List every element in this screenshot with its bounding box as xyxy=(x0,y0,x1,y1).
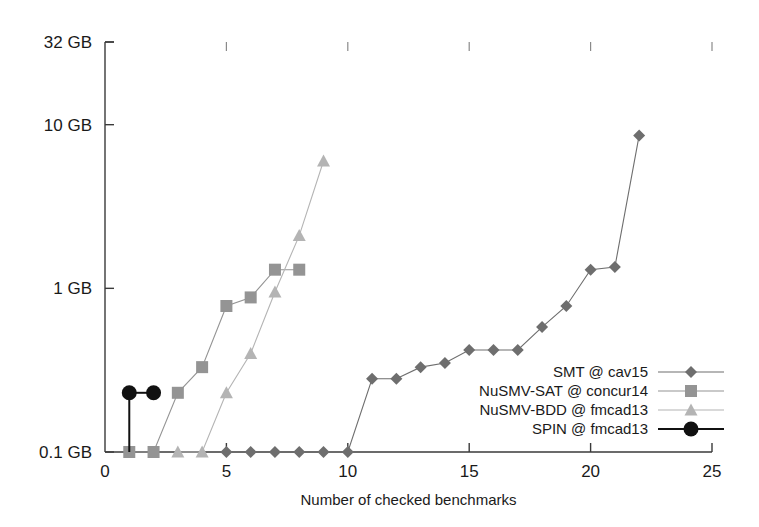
data-point xyxy=(245,446,257,458)
legend-entry: NuSMV-BDD @ fmcad13 xyxy=(479,401,724,418)
x-tick-label: 10 xyxy=(338,462,357,481)
series-line xyxy=(178,161,324,452)
y-tick-label: 10 GB xyxy=(44,116,92,135)
data-point xyxy=(342,446,354,458)
data-point xyxy=(196,361,208,373)
data-point xyxy=(245,291,257,303)
data-point xyxy=(122,385,137,400)
legend-marker xyxy=(685,385,697,397)
data-point xyxy=(609,261,621,273)
data-point xyxy=(172,387,184,399)
data-point xyxy=(390,373,402,385)
data-point xyxy=(293,446,305,458)
legend-entry: SPIN @ fmcad13 xyxy=(532,420,724,437)
data-point xyxy=(293,264,305,276)
series-spin-fmcad13 xyxy=(122,385,161,452)
legend-marker xyxy=(685,366,697,378)
data-point xyxy=(585,264,597,276)
data-point xyxy=(463,344,475,356)
memory-usage-line-chart: 0.1 GB1 GB10 GB32 GB0510152025Number of … xyxy=(0,0,759,527)
chart-container: 0.1 GB1 GB10 GB32 GB0510152025Number of … xyxy=(0,0,759,527)
data-point xyxy=(366,373,378,385)
y-tick-label: 0.1 GB xyxy=(39,443,92,462)
legend-marker xyxy=(684,422,699,437)
legend-label: SPIN @ fmcad13 xyxy=(532,420,648,437)
data-point xyxy=(293,229,306,241)
data-point xyxy=(220,386,233,398)
x-tick-label: 15 xyxy=(460,462,479,481)
x-tick-label: 5 xyxy=(222,462,231,481)
y-tick-label: 1 GB xyxy=(53,279,92,298)
x-tick-label: 20 xyxy=(581,462,600,481)
data-point xyxy=(146,385,161,400)
legend-label: NuSMV-SAT @ concur14 xyxy=(479,382,648,399)
data-point xyxy=(317,154,330,166)
legend-entry: NuSMV-SAT @ concur14 xyxy=(479,382,724,399)
data-point xyxy=(439,357,451,369)
data-point xyxy=(487,344,499,356)
x-axis-title: Number of checked benchmarks xyxy=(301,491,517,508)
legend-entry: SMT @ cav15 xyxy=(553,363,724,380)
series-nusmv-bdd-fmcad13 xyxy=(171,154,330,457)
legend-label: NuSMV-BDD @ fmcad13 xyxy=(479,401,648,418)
data-point xyxy=(268,285,281,297)
data-point xyxy=(244,347,257,359)
data-point xyxy=(415,361,427,373)
data-point xyxy=(269,264,281,276)
data-point xyxy=(318,446,330,458)
x-tick-label: 25 xyxy=(703,462,722,481)
data-point xyxy=(633,129,645,141)
y-tick-label: 32 GB xyxy=(44,33,92,52)
data-point xyxy=(269,446,281,458)
data-point xyxy=(220,300,232,312)
x-tick-label: 0 xyxy=(100,462,109,481)
data-point xyxy=(148,446,160,458)
legend-label: SMT @ cav15 xyxy=(553,363,648,380)
data-point xyxy=(220,446,232,458)
